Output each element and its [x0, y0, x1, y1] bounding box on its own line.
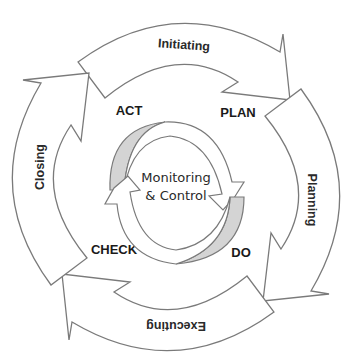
pdca-label-check: CHECK — [91, 242, 138, 257]
phase-arrow-closing — [12, 73, 89, 285]
phase-arrow-initiating — [78, 23, 290, 100]
phase-label-planning: Planning — [305, 174, 319, 227]
center-label-control: & Control — [145, 188, 206, 203]
pdca-label-plan: PLAN — [220, 105, 255, 120]
phase-arrow-planning — [263, 89, 340, 301]
phase-label-executing: Executing — [146, 319, 206, 333]
center-label-monitoring: Monitoring — [141, 170, 211, 185]
phase-arrow-executing — [62, 274, 274, 351]
process-cycle-diagram: Initiating Planning Executing Closing AC… — [0, 0, 353, 361]
phase-label-closing: Closing — [33, 144, 47, 190]
pdca-label-do: DO — [231, 245, 251, 260]
pdca-label-act: ACT — [116, 103, 143, 118]
